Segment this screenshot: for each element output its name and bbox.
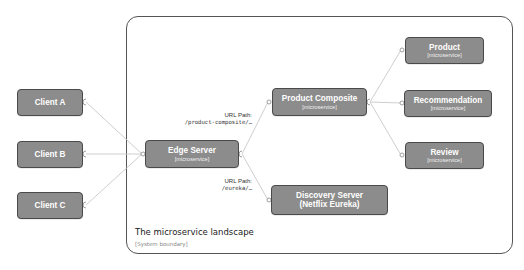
client-c-node[interactable]: Client C: [17, 192, 83, 219]
product-name: Product: [429, 43, 460, 52]
client-a-label: Client A: [35, 98, 66, 107]
discovery-server-tech: (Netflix Eureka): [299, 200, 359, 209]
diagram-canvas: The microservice landscape [System bound…: [0, 0, 524, 270]
recommendation-name: Recommendation: [414, 96, 483, 105]
route-eureka-title: URL Path:: [222, 178, 252, 185]
boundary-subtitle: [System boundary]: [135, 241, 188, 247]
edge-server-tech: [microservice]: [175, 156, 210, 162]
product-tech: [microservice]: [427, 52, 462, 58]
route-composite-title: URL Path:: [185, 112, 252, 119]
product-composite-name: Product Composite: [282, 94, 358, 103]
port-client-b: [83, 151, 86, 157]
discovery-server-node[interactable]: Discovery Server (Netflix Eureka): [271, 185, 388, 215]
edge-server-node[interactable]: Edge Server [microservice]: [145, 140, 239, 168]
product-node[interactable]: Product [microservice]: [405, 37, 484, 64]
client-a-node[interactable]: Client A: [17, 89, 83, 116]
discovery-server-name: Discovery Server: [296, 191, 363, 200]
client-b-label: Client B: [35, 150, 66, 159]
review-node[interactable]: Review [microservice]: [405, 142, 484, 169]
product-composite-tech: [microservice]: [302, 104, 337, 110]
recommendation-node[interactable]: Recommendation [microservice]: [404, 90, 492, 117]
route-label-eureka: URL Path: /eureka/…: [222, 178, 252, 192]
edge-server-name: Edge Server: [168, 146, 216, 155]
client-c-label: Client C: [35, 201, 66, 210]
boundary-title: The microservice landscape: [135, 227, 254, 237]
route-label-composite: URL Path: /product-composite/…: [185, 112, 252, 126]
port-client-a: [83, 99, 86, 105]
client-b-node[interactable]: Client B: [17, 141, 83, 168]
product-composite-node[interactable]: Product Composite [microservice]: [272, 88, 367, 116]
route-eureka-path: /eureka/…: [222, 185, 252, 192]
port-client-c: [83, 202, 86, 208]
review-name: Review: [430, 148, 458, 157]
review-tech: [microservice]: [427, 157, 462, 163]
route-composite-path: /product-composite/…: [185, 119, 252, 126]
recommendation-tech: [microservice]: [431, 105, 466, 111]
